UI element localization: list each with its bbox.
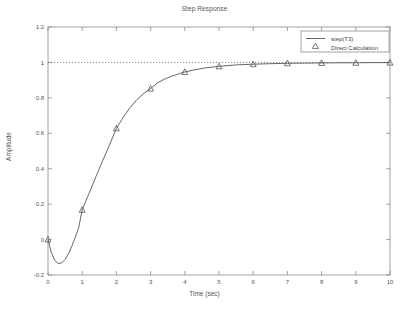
y-tick-label: 0 — [41, 237, 45, 243]
x-tick-label: 10 — [387, 279, 394, 285]
x-tick-label: 5 — [217, 279, 221, 285]
legend[interactable]: step(T3) Direct Calculation — [301, 31, 389, 52]
legend-label-1: Direct Calculation — [331, 45, 378, 51]
y-tick-label: 0.2 — [36, 201, 45, 207]
x-tick-label: 0 — [46, 279, 50, 285]
step-response-plot: -0.200.20.40.60.811.2 012345678910 step(… — [0, 0, 409, 309]
plot-frame — [48, 27, 390, 275]
y-tick-label: 0.8 — [36, 95, 45, 101]
x-tick-label: 8 — [320, 279, 324, 285]
x-tick-label: 7 — [286, 279, 290, 285]
x-tick-label: 3 — [149, 279, 153, 285]
y-tick-label: 1.2 — [36, 24, 45, 30]
y-tick-label: -0.2 — [34, 272, 45, 278]
y-tick-label: 1 — [41, 60, 45, 66]
figure-canvas: Step Response Time (sec) Amplitude -0.20… — [0, 0, 409, 309]
x-tick-label: 2 — [115, 279, 119, 285]
x-tick-label: 9 — [354, 279, 358, 285]
x-tick-label: 1 — [81, 279, 85, 285]
legend-label-0: step(T3) — [331, 36, 353, 42]
x-tick-label: 4 — [183, 279, 187, 285]
y-tick-label: 0.6 — [36, 130, 45, 136]
x-tick-label: 6 — [252, 279, 256, 285]
y-tick-label: 0.4 — [36, 166, 45, 172]
series-line-step — [48, 63, 390, 264]
series-markers-direct — [45, 60, 393, 243]
